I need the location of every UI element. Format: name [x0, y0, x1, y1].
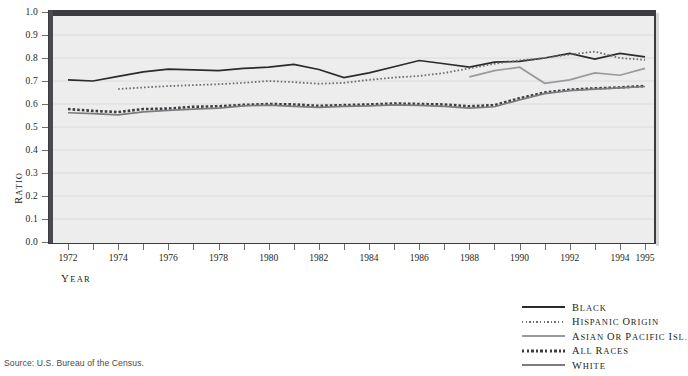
legend-item-black[interactable]: BLACK: [522, 300, 672, 315]
x-tick-label: 1995: [636, 253, 655, 263]
x-tick-mark: [193, 244, 194, 250]
legend-label-black: BLACK: [565, 302, 607, 313]
x-tick-label: 1978: [209, 253, 228, 263]
legend-swatch-all-icon: [522, 346, 565, 356]
x-tick-mark: [68, 244, 69, 250]
x-tick-mark: [394, 244, 395, 250]
x-tick-mark: [570, 244, 571, 250]
x-tick-mark: [444, 244, 445, 250]
y-tick-label: 0.6: [26, 99, 38, 109]
legend-item-all[interactable]: ALL RACES: [522, 344, 672, 359]
x-tick-mark: [545, 244, 546, 250]
x-tick-mark: [269, 244, 270, 250]
legend-label-hispanic: HISPANIC ORIGIN: [565, 316, 659, 327]
x-tick-label: 1974: [109, 253, 128, 263]
x-tick-mark: [645, 244, 646, 250]
legend-label-asian: ASIAN OR PACIFIC ISL.: [565, 331, 688, 342]
y-tick-label: 0.3: [26, 168, 38, 178]
x-tick-label: 1984: [360, 253, 379, 263]
x-axis-title-text: YEAR: [196, 272, 217, 284]
x-tick-label: 1986: [410, 253, 429, 263]
legend-swatch-asian-icon: [522, 331, 565, 341]
legend-label-white: WHITE: [565, 360, 606, 371]
plot-area: [53, 16, 654, 243]
x-tick-label: 1972: [59, 253, 78, 263]
x-axis-title: YEAR: [0, 272, 672, 284]
series-line-all-races: [68, 86, 645, 112]
x-tick-mark: [244, 244, 245, 250]
x-tick-mark: [595, 244, 596, 250]
x-tick-mark: [168, 244, 169, 250]
x-tick-label: 1990: [510, 253, 529, 263]
x-tick-label: 1980: [259, 253, 278, 263]
legend-label-all: ALL RACES: [565, 345, 629, 356]
x-tick-mark: [494, 244, 495, 250]
x-tick-mark: [118, 244, 119, 250]
y-tick-label: 0.9: [26, 30, 38, 40]
x-tick-label: 1992: [560, 253, 579, 263]
y-tick-label: 0.1: [26, 214, 38, 224]
x-tick-mark: [219, 244, 220, 250]
chart-legend: BLACKHISPANIC ORIGINASIAN OR PACIFIC ISL…: [522, 300, 672, 373]
x-tick-label: 1988: [460, 253, 479, 263]
source-note: Source: U.S. Bureau of the Census.: [4, 358, 144, 368]
x-tick-mark: [93, 244, 94, 250]
legend-item-white[interactable]: WHITE: [522, 358, 672, 373]
y-tick-label: 0.2: [26, 191, 38, 201]
x-tick-mark: [369, 244, 370, 250]
y-tick-label: 0.5: [26, 122, 38, 132]
x-tick-mark: [620, 244, 621, 250]
y-axis-ticks: 0.00.10.20.30.40.50.60.70.80.91.0: [0, 0, 48, 376]
x-tick-mark: [469, 244, 470, 250]
chart-svg: [53, 16, 654, 243]
legend-swatch-white-icon: [522, 360, 565, 370]
x-tick-mark: [419, 244, 420, 250]
legend-item-hispanic[interactable]: HISPANIC ORIGIN: [522, 315, 672, 330]
legend-swatch-hispanic-icon: [522, 317, 565, 327]
x-axis-ticks: 1972197419761978198019821984198619881990…: [0, 244, 672, 274]
legend-item-asian[interactable]: ASIAN OR PACIFIC ISL.: [522, 329, 672, 344]
frame-shadow: [656, 13, 659, 246]
legend-swatch-black-icon: [522, 302, 565, 312]
y-tick-label: 0.4: [26, 145, 38, 155]
x-tick-label: 1976: [159, 253, 178, 263]
y-tick-label: 0.8: [26, 53, 38, 63]
x-tick-mark: [319, 244, 320, 250]
x-tick-mark: [143, 244, 144, 250]
x-tick-mark: [294, 244, 295, 250]
x-tick-label: 1982: [309, 253, 328, 263]
y-tick-label: 1.0: [26, 7, 38, 17]
x-tick-label: 1994: [610, 253, 629, 263]
x-tick-mark: [344, 244, 345, 250]
y-tick-label: 0.7: [26, 76, 38, 86]
x-tick-mark: [520, 244, 521, 250]
